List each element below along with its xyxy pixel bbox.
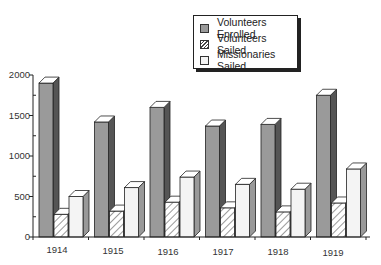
bar-missionaries-sailed — [69, 197, 83, 238]
bars-group — [39, 77, 367, 237]
bar-missionaries-sailed — [236, 184, 250, 237]
bar-chart — [0, 0, 381, 265]
bar-volunteers-sailed — [332, 203, 346, 237]
bar-volunteers-enrolled — [150, 107, 164, 237]
bar-volunteers-sailed — [110, 211, 124, 237]
legend-swatch-white-icon — [200, 56, 209, 65]
legend-swatch-solid-gray-icon — [200, 24, 209, 33]
bar-volunteers-sailed — [221, 208, 235, 237]
x-tick-label-1916: 1916 — [148, 246, 188, 257]
bar-group-1917 — [206, 120, 256, 237]
bar-volunteers-sailed — [165, 202, 179, 237]
bar-volunteers-enrolled — [317, 95, 331, 237]
legend-label: Missionaries Sailed — [217, 48, 297, 72]
y-tick-label-1500: 1500 — [0, 110, 30, 121]
bar-volunteers-enrolled — [206, 126, 220, 237]
bar-group-1914 — [39, 77, 89, 237]
x-tick-label-1918: 1918 — [258, 246, 298, 257]
bar-group-1919 — [317, 89, 367, 237]
y-tick-label-1000: 1000 — [0, 150, 30, 161]
bar-missionaries-sailed — [125, 188, 139, 237]
bar-volunteers-enrolled — [261, 124, 275, 237]
y-tick-label-2000: 2000 — [0, 69, 30, 80]
legend-swatch-hatched-icon — [200, 40, 209, 49]
bar-missionaries-sailed — [291, 189, 305, 237]
x-tick-label-1915: 1915 — [93, 245, 133, 256]
bar-missionaries-sailed — [347, 169, 361, 237]
legend: Volunteers Enrolled Volunteers Sailed Mi… — [193, 15, 298, 69]
y-tick-label-0: 0 — [0, 231, 30, 242]
bar-volunteers-enrolled — [39, 83, 53, 237]
bar-group-1915 — [95, 116, 145, 237]
bar-group-1916 — [150, 101, 200, 237]
legend-item-missionaries-sailed: Missionaries Sailed — [200, 52, 297, 68]
x-tick-label-1919: 1919 — [313, 247, 353, 258]
bar-volunteers-enrolled — [95, 122, 109, 237]
bar-group-1918 — [261, 118, 311, 237]
y-tick-label-500: 500 — [0, 191, 30, 202]
bar-volunteers-sailed — [54, 214, 68, 237]
bar-volunteers-sailed — [276, 212, 290, 237]
x-tick-label-1914: 1914 — [37, 244, 77, 255]
x-tick-label-1917: 1917 — [203, 246, 243, 257]
bar-missionaries-sailed — [180, 177, 194, 237]
